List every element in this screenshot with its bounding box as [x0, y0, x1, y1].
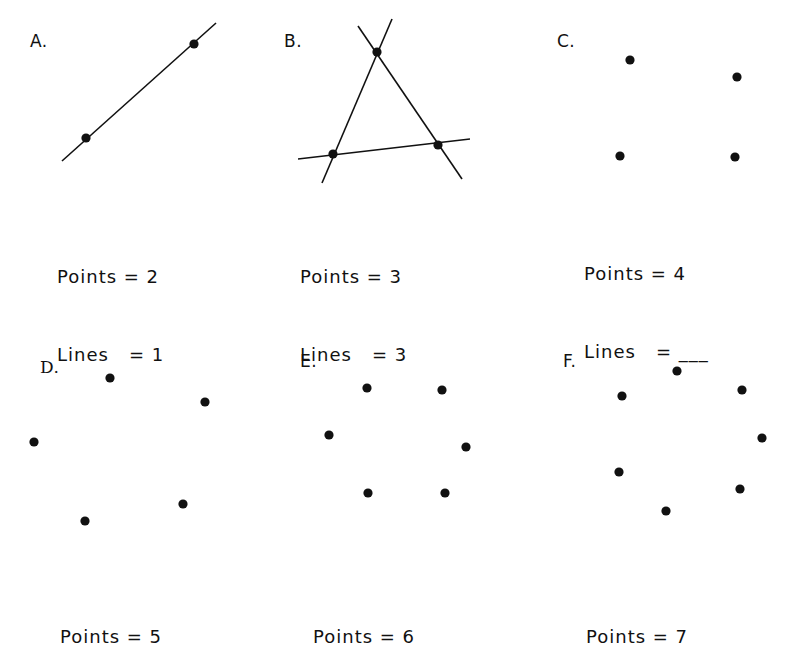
- panel-b-label: B.: [284, 31, 302, 51]
- panel-a-label: A.: [30, 31, 48, 51]
- panel-f-label: F.: [563, 351, 576, 371]
- points-count: Points = 2: [57, 264, 164, 290]
- points-count: Points = 7: [586, 624, 711, 650]
- panel-b-counts: Points = 3 Lines = 3: [300, 212, 407, 394]
- point-dot: [614, 467, 623, 476]
- point-dot: [661, 506, 670, 515]
- point-dot: [625, 55, 634, 64]
- panel-c-counts: Points = 4 Lines = ___: [584, 209, 709, 391]
- point-dot: [200, 397, 209, 406]
- panel-f-counts: Points = 7 Lines = ___: [586, 572, 711, 654]
- panel-e-counts: Points = 6 Lines = ___: [313, 572, 438, 654]
- point-dot: [732, 72, 741, 81]
- panel-a-counts: Points = 2 Lines = 1: [57, 212, 164, 394]
- point-dot: [189, 39, 198, 48]
- point-dot: [324, 430, 333, 439]
- lines-count: Lines = 3: [300, 342, 407, 368]
- point-dot: [437, 385, 446, 394]
- points-count: Points = 3: [300, 264, 407, 290]
- point-dot: [178, 499, 187, 508]
- point-dot: [737, 385, 746, 394]
- point-dot: [29, 437, 38, 446]
- point-dot: [372, 47, 381, 56]
- panel-e-figure: [324, 383, 470, 497]
- panel-c-figure: [615, 55, 741, 161]
- points-count: Points = 6: [313, 624, 438, 650]
- point-dot: [80, 516, 89, 525]
- panel-c-label: C.: [557, 31, 575, 51]
- panel-d-figure: [29, 373, 209, 525]
- point-dot: [615, 151, 624, 160]
- point-dot: [440, 488, 449, 497]
- line: [298, 139, 470, 159]
- panel-d-counts: Points = 5 Lines = ___: [60, 572, 185, 654]
- points-count: Points = 4: [584, 261, 709, 287]
- point-dot: [81, 133, 90, 142]
- point-dot: [328, 149, 337, 158]
- point-dot: [363, 488, 372, 497]
- lines-count: Lines = ___: [584, 339, 709, 365]
- point-dot: [735, 484, 744, 493]
- point-dot: [433, 140, 442, 149]
- lines-count: Lines = 1: [57, 342, 164, 368]
- point-dot: [730, 152, 739, 161]
- point-dot: [617, 391, 626, 400]
- points-count: Points = 5: [60, 624, 185, 650]
- panel-a-figure: [62, 23, 216, 161]
- point-dot: [461, 442, 470, 451]
- panel-b-figure: [298, 19, 470, 183]
- point-dot: [757, 433, 766, 442]
